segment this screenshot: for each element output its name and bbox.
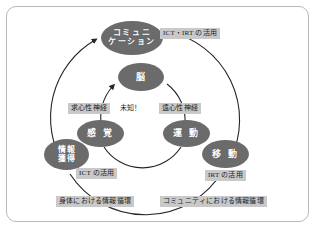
node-communication-label: コミュニ ケーション (108, 29, 156, 47)
node-brain-label: 脳 (136, 72, 146, 82)
diagram-page: コミュニ ケーション 脳 感 覚 運 動 情報 獲得 移 動 ICT・IRT の… (0, 0, 317, 230)
node-sense-label: 感 覚 (87, 128, 115, 138)
label-afferent-nerve: 求心性神経 (68, 103, 110, 114)
node-sense[interactable]: 感 覚 (77, 120, 124, 147)
node-motion[interactable]: 運 動 (163, 120, 210, 147)
label-efferent-nerve: 遠心性神経 (159, 103, 201, 114)
arc-inner-bottom (104, 147, 181, 168)
node-motion-label: 運 動 (173, 128, 201, 138)
node-information-acquisition-label: 情報 獲得 (58, 146, 76, 164)
node-information-acquisition[interactable]: 情報 獲得 (44, 139, 89, 170)
node-brain[interactable]: 脳 (118, 63, 164, 91)
node-locomotion-label: 移 動 (212, 149, 240, 159)
label-unknown: 未知！ (120, 103, 141, 114)
node-communication[interactable]: コミュニ ケーション (101, 21, 163, 55)
label-ict-irt-utilization: ICT・IRT の活用 (160, 28, 220, 39)
node-locomotion[interactable]: 移 動 (202, 140, 249, 168)
label-body-information-circulation: 身体における情報循環 (56, 196, 134, 207)
label-irt-utilization: IRT の活用 (205, 170, 246, 181)
label-ict-utilization: ICT の活用 (76, 168, 117, 179)
label-community-information-circulation: コミュニティにおける情報循環 (160, 196, 267, 207)
